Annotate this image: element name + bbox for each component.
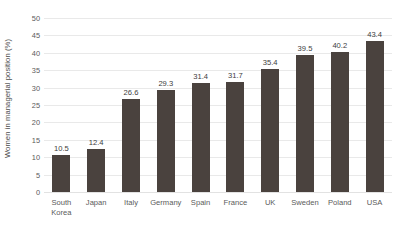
x-axis-label: SouthKorea: [44, 196, 79, 236]
y-tick-label-10: 10: [16, 153, 40, 162]
y-tick-label-25: 25: [16, 101, 40, 110]
bar-value-label: 29.3: [158, 79, 173, 88]
y-tick-label-0: 0: [16, 188, 40, 197]
bar-value-label: 35.4: [263, 58, 278, 67]
x-axis-label: Spain: [183, 196, 218, 236]
bar[interactable]: [122, 99, 140, 192]
bar-value-label: 31.7: [228, 71, 243, 80]
bar-slot: 26.6: [114, 18, 149, 192]
bar-slot: 29.3: [148, 18, 183, 192]
x-axis-label: UK: [253, 196, 288, 236]
bar-value-label: 31.4: [193, 72, 208, 81]
y-tick-label-15: 15: [16, 135, 40, 144]
bar[interactable]: [226, 82, 244, 192]
bar-slot: 31.4: [183, 18, 218, 192]
bar-series: 10.512.426.629.331.431.735.439.540.243.4: [44, 18, 392, 192]
bar-slot: 39.5: [288, 18, 323, 192]
y-tick-label-45: 45: [16, 31, 40, 40]
gridline-0: [44, 192, 392, 193]
bar[interactable]: [157, 90, 175, 192]
x-axis-category-labels: SouthKoreaJapanItalyGermanySpainFranceUK…: [44, 196, 392, 236]
bar-value-label: 43.4: [367, 30, 382, 39]
bar[interactable]: [366, 41, 384, 192]
x-axis-label: France: [218, 196, 253, 236]
bar-value-label: 10.5: [54, 144, 69, 153]
bar-slot: 35.4: [253, 18, 288, 192]
x-axis-label: Poland: [322, 196, 357, 236]
y-tick-label-50: 50: [16, 14, 40, 23]
bar-slot: 43.4: [357, 18, 392, 192]
bar[interactable]: [331, 52, 349, 192]
bar[interactable]: [192, 83, 210, 192]
y-tick-label-35: 35: [16, 66, 40, 75]
bar-value-label: 39.5: [298, 44, 313, 53]
bar-chart: Women in managerial position (%) 0510152…: [0, 0, 402, 238]
bar-slot: 10.5: [44, 18, 79, 192]
bar-value-label: 12.4: [89, 138, 104, 147]
x-axis-label: Sweden: [288, 196, 323, 236]
x-axis-label: Japan: [79, 196, 114, 236]
x-axis-label: Italy: [114, 196, 149, 236]
bar[interactable]: [52, 155, 70, 192]
bar-slot: 40.2: [322, 18, 357, 192]
y-axis-title-text: Women in managerial position (%): [4, 38, 13, 157]
bar-value-label: 26.6: [124, 88, 139, 97]
x-axis-label: USA: [357, 196, 392, 236]
bar[interactable]: [296, 55, 314, 192]
y-tick-label-30: 30: [16, 83, 40, 92]
y-tick-label-20: 20: [16, 118, 40, 127]
bar-slot: 12.4: [79, 18, 114, 192]
bar[interactable]: [87, 149, 105, 192]
bar-slot: 31.7: [218, 18, 253, 192]
bar[interactable]: [261, 69, 279, 192]
y-axis-tick-labels: 05101520253035404550: [14, 18, 40, 192]
y-tick-label-5: 5: [16, 170, 40, 179]
y-tick-label-40: 40: [16, 48, 40, 57]
bar-value-label: 40.2: [332, 41, 347, 50]
x-axis-label: Germany: [148, 196, 183, 236]
